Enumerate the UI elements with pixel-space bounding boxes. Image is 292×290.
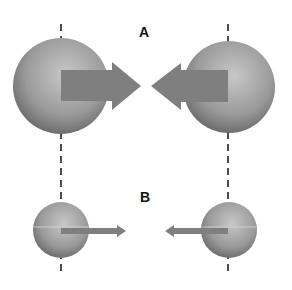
label-b: B	[140, 189, 150, 205]
diagram-canvas	[0, 0, 292, 290]
panel-a	[13, 38, 275, 134]
label-a: A	[139, 24, 149, 40]
panel-b	[33, 202, 257, 258]
